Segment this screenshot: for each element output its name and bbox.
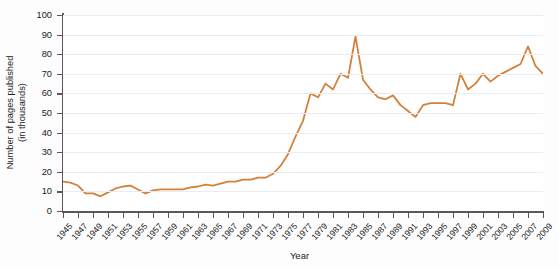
x-tick-mark [318, 212, 319, 218]
y-tick-mark [57, 93, 63, 94]
y-tick-label: 0 [26, 206, 52, 216]
plot-area [63, 15, 543, 211]
gridline [63, 54, 543, 55]
x-tick-mark [108, 212, 109, 218]
x-tick-mark [168, 212, 169, 218]
y-tick-mark [57, 74, 63, 75]
x-tick-mark [498, 212, 499, 218]
gridline [63, 133, 543, 134]
x-tick-mark [288, 212, 289, 218]
gridline [63, 191, 543, 192]
x-tick-mark [183, 212, 184, 218]
x-tick-mark [468, 212, 469, 218]
x-tick-mark [528, 212, 529, 218]
x-tick-mark [78, 212, 79, 218]
x-tick-mark [138, 212, 139, 218]
y-tick-label: 100 [26, 10, 52, 20]
y-axis-tick-labels: 0102030405060708090100 [22, 0, 52, 268]
x-tick-mark [153, 212, 154, 218]
gridline [63, 152, 543, 153]
y-tick-label: 90 [26, 30, 52, 40]
y-tick-mark [57, 15, 63, 16]
y-tick-label: 80 [26, 49, 52, 59]
x-tick-mark [393, 212, 394, 218]
y-tick-label: 60 [26, 88, 52, 98]
x-tick-mark [333, 212, 334, 218]
y-tick-mark [57, 172, 63, 173]
chart-figure: Number of pages published (in thousands)… [0, 0, 559, 268]
x-tick-mark [438, 212, 439, 218]
x-tick-mark [243, 212, 244, 218]
x-tick-mark [123, 212, 124, 218]
y-axis-label-line1: Number of pages published [6, 56, 18, 170]
y-tick-label: 20 [26, 167, 52, 177]
x-tick-mark [93, 212, 94, 218]
x-tick-mark [198, 212, 199, 218]
y-tick-label: 30 [26, 147, 52, 157]
x-tick-mark [543, 212, 544, 218]
x-tick-mark [423, 212, 424, 218]
gridline [63, 172, 543, 173]
y-tick-mark [57, 113, 63, 114]
y-tick-label: 10 [26, 186, 52, 196]
x-tick-mark [483, 212, 484, 218]
x-tick-mark [213, 212, 214, 218]
y-tick-mark [57, 35, 63, 36]
gridline [63, 15, 543, 16]
y-tick-mark [57, 211, 63, 212]
x-axis-label-text: Year [290, 250, 309, 261]
x-tick-mark [513, 212, 514, 218]
gridline [63, 35, 543, 36]
y-tick-mark [57, 152, 63, 153]
x-tick-mark [453, 212, 454, 218]
x-tick-mark [273, 212, 274, 218]
y-tick-mark [57, 191, 63, 192]
x-tick-mark [408, 212, 409, 218]
y-tick-label: 70 [26, 69, 52, 79]
gridline [63, 74, 543, 75]
gridline [63, 113, 543, 114]
x-tick-mark [63, 212, 64, 218]
x-axis-label: Year [0, 250, 559, 261]
y-tick-mark [57, 54, 63, 55]
y-tick-mark [57, 133, 63, 134]
x-tick-mark [228, 212, 229, 218]
x-tick-mark [363, 212, 364, 218]
y-tick-label: 50 [26, 108, 52, 118]
x-tick-mark [258, 212, 259, 218]
x-tick-mark [348, 212, 349, 218]
x-tick-mark [303, 212, 304, 218]
x-tick-mark [378, 212, 379, 218]
y-tick-label: 40 [26, 128, 52, 138]
x-tick-label: 2009 [534, 221, 554, 242]
gridline [63, 93, 543, 94]
